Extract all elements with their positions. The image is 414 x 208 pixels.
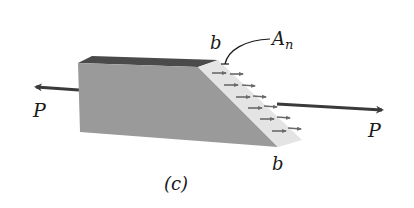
area-label-subscript: n — [285, 37, 293, 52]
load-label-left: P — [32, 99, 47, 121]
area-label-base: A — [270, 28, 285, 49]
bar-block — [78, 56, 302, 147]
figure-caption: (c) — [164, 173, 188, 194]
left-load-arrow — [36, 87, 79, 90]
area-leader-line — [225, 39, 270, 64]
right-load-arrow — [277, 104, 382, 110]
edge-label-bottom: b — [272, 153, 284, 174]
load-label-right: P — [367, 119, 382, 141]
diagram-canvas: P P b b An (c) — [0, 0, 414, 208]
edge-label-top: b — [210, 32, 222, 53]
area-label: An — [270, 28, 293, 52]
